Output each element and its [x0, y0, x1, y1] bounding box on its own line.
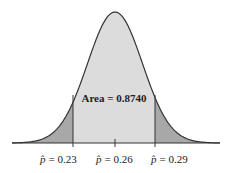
center-area	[12, 12, 220, 143]
tick-label-left: p̂= 0.23	[39, 153, 77, 165]
tick-label-right: p̂= 0.29	[150, 153, 188, 165]
normal-curve-chart: Area = 0.8740 p̂= 0.23 p̂= 0.26 p̂= 0.29	[0, 0, 233, 173]
tick-label-mid: p̂= 0.26	[95, 153, 133, 165]
area-annotation: Area = 0.8740	[81, 92, 147, 104]
